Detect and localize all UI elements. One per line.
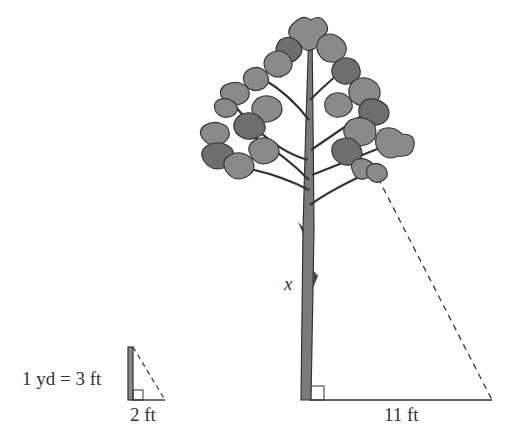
small-shadow-line bbox=[133, 347, 165, 400]
small-base-label: 2 ft bbox=[130, 404, 156, 426]
right-angle-marker bbox=[310, 386, 324, 400]
yardstick bbox=[128, 347, 133, 400]
tree-trunk bbox=[301, 30, 314, 400]
right-angle-marker bbox=[133, 390, 143, 400]
large-base-label: 11 ft bbox=[384, 404, 419, 426]
unit-conversion-label: 1 yd = 3 ft bbox=[22, 368, 101, 390]
tree-height-label: x bbox=[284, 273, 292, 295]
large-shadow-line bbox=[378, 178, 492, 400]
tree bbox=[200, 17, 414, 400]
large-triangle bbox=[310, 178, 492, 400]
small-triangle bbox=[128, 347, 165, 400]
